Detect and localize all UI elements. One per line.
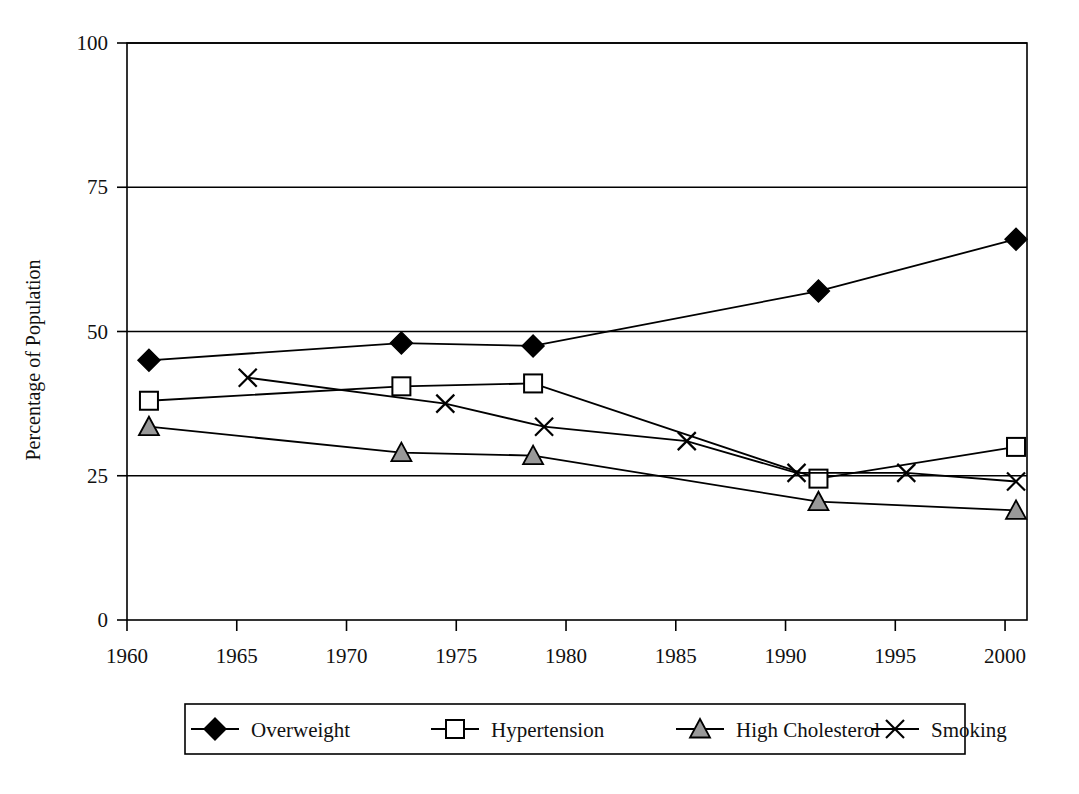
y-axis: 0255075100: [77, 31, 128, 632]
legend-label: Smoking: [931, 718, 1007, 742]
x-tick-label: 1965: [216, 644, 258, 668]
legend-marker-icon: [446, 720, 464, 738]
x-tick-label: 1970: [326, 644, 368, 668]
legend-item-overweight[interactable]: Overweight: [191, 718, 350, 742]
y-tick-label: 25: [87, 464, 108, 488]
chart-legend: OverweightHypertensionHigh CholesterolSm…: [185, 704, 1007, 754]
legend-label: Overweight: [251, 718, 350, 742]
x-tick-label: 1980: [545, 644, 587, 668]
x-tick-label: 1960: [106, 644, 148, 668]
chart-figure: 0255075100 19601965197019751980198519901…: [0, 0, 1079, 794]
y-tick-label: 75: [87, 175, 108, 199]
legend-label: Hypertension: [491, 718, 605, 742]
y-tick-label: 100: [77, 31, 109, 55]
x-tick-label: 1975: [435, 644, 477, 668]
y-tick-label: 50: [87, 320, 108, 344]
x-tick-label: 1995: [874, 644, 916, 668]
data-point-marker: [524, 374, 542, 392]
data-point-marker: [1007, 438, 1025, 456]
data-point-marker: [140, 392, 158, 410]
x-axis: 196019651970197519801985199019952000: [106, 620, 1026, 668]
x-tick-label: 2000: [984, 644, 1026, 668]
legend-label: High Cholesterol: [736, 718, 880, 742]
data-point-marker: [392, 377, 410, 395]
legend-item-hypertension[interactable]: Hypertension: [431, 718, 605, 742]
line-chart-canvas: 0255075100 19601965197019751980198519901…: [0, 0, 1079, 794]
y-tick-label: 0: [98, 608, 109, 632]
y-axis-title: Percentage of Population: [22, 259, 45, 460]
x-tick-label: 1990: [765, 644, 807, 668]
x-tick-label: 1985: [655, 644, 697, 668]
